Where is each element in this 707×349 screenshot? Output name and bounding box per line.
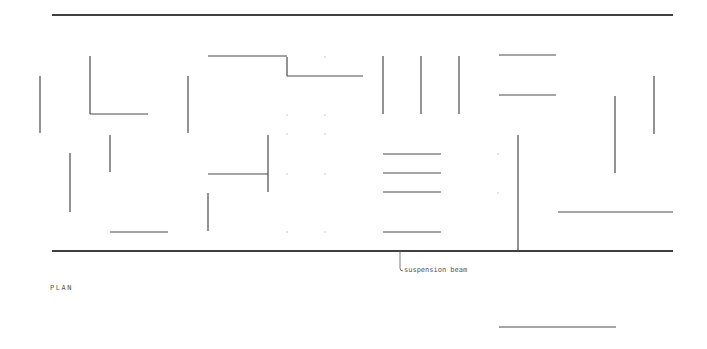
grid-mark	[286, 174, 288, 175]
grid-mark	[286, 232, 288, 233]
grid-mark	[286, 134, 288, 135]
grid-mark	[324, 174, 326, 175]
walls-group	[40, 55, 673, 327]
grid-mark	[324, 57, 326, 58]
plan-drawing: suspension beam PLAN	[0, 0, 707, 349]
grid-mark	[497, 154, 499, 155]
beam-leader-line	[400, 251, 403, 271]
beam-annotation-label: suspension beam	[404, 266, 467, 274]
plan-title-label: PLAN	[50, 284, 73, 292]
grid-marks-group	[286, 57, 499, 233]
grid-mark	[286, 115, 288, 116]
beams-group	[52, 15, 673, 251]
grid-mark	[324, 115, 326, 116]
grid-mark	[324, 134, 326, 135]
grid-mark	[324, 232, 326, 233]
grid-mark	[497, 193, 499, 194]
